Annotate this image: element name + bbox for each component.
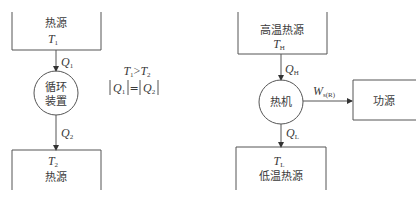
work-arrow: Ws(R) (303, 84, 352, 101)
left-q-in-label: Q1 (61, 55, 74, 70)
heat-engine-diagrams: 热源 T1 Q1 循环 装置 Q2 T2 热源 T1>T2 (0, 0, 416, 203)
high-temp-source-label: 高温热源 (260, 23, 304, 37)
cycle-device-node: 循环 装置 (34, 71, 78, 115)
left-q-out-label: Q2 (61, 126, 74, 141)
heat-relation-op: = (129, 82, 138, 95)
right-q-out-arrow: QL (281, 124, 299, 147)
high-temp-source-box: 高温热源 TH (238, 12, 327, 54)
high-temp-source-temp: TH (273, 37, 285, 52)
left-q-out-arrow: Q2 (56, 115, 74, 150)
heat-engine-label: 热机 (270, 95, 292, 109)
heat-relation-q1: Q1 (113, 81, 126, 96)
low-temp-source-box: TL 低温热源 (236, 147, 326, 190)
heat-relation: Q1 = Q2 (110, 80, 158, 96)
left-cold-source-box: T2 热源 (12, 150, 101, 190)
left-cold-source-temp: T2 (48, 154, 59, 169)
left-hot-source-temp: T1 (48, 32, 59, 47)
heat-relation-q2: Q2 (143, 81, 156, 96)
right-q-out-label: QL (286, 126, 299, 141)
low-temp-source-label: 低温热源 (259, 169, 303, 183)
right-diagram: 高温热源 TH QH 热机 Ws(R) 功源 QL (236, 12, 416, 190)
work-sink-label: 功源 (373, 94, 395, 108)
right-q-in-arrow: QH (281, 54, 299, 80)
temperature-relation: T1>T2 (123, 64, 151, 79)
right-q-in-label: QH (285, 62, 299, 77)
left-q-in-arrow: Q1 (56, 50, 74, 71)
cycle-device-label-2: 装置 (45, 95, 67, 108)
heat-engine-node: 热机 (259, 80, 303, 124)
cycle-device-label-1: 循环 (45, 81, 67, 94)
work-sink-box: 功源 (353, 80, 416, 120)
low-temp-source-temp: TL (274, 154, 285, 169)
left-diagram: 热源 T1 Q1 循环 装置 Q2 T2 热源 T1>T2 (12, 12, 158, 190)
left-hot-source-box: 热源 T1 (12, 12, 101, 50)
left-cold-source-label: 热源 (45, 170, 67, 184)
left-hot-source-label: 热源 (45, 16, 67, 30)
work-label: Ws(R) (313, 84, 336, 99)
relations-text: T1>T2 Q1 = Q2 (110, 64, 158, 96)
